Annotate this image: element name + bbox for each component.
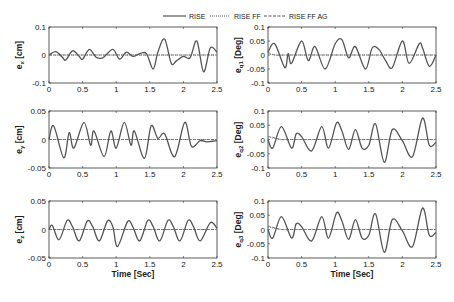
y-tick-label: -0.1 [32,79,46,88]
x-tick-label: 1.5 [144,260,156,269]
y-tick-label: 0.1 [254,197,266,206]
x-axis-label: Time [Sec] [331,269,374,279]
y-tick-label: 0 [261,136,266,145]
x-tick-label: 1 [333,85,338,94]
y-tick-label: 0 [42,51,47,60]
y-tick-label: -0.05 [28,164,47,173]
x-tick-label: 1 [114,170,119,179]
y-axis-label: ez [cm] [14,215,25,243]
y-tick-label: 0 [42,136,47,145]
x-tick-label: 2.5 [430,170,442,179]
x-tick-label: 1 [114,85,119,94]
panel-eq1: 00.511.522.50.10.050-0.05-0.1eq1 [Deg] [233,23,442,94]
y-tick-label: 0.05 [249,121,265,130]
x-tick-label: 2.5 [211,260,223,269]
x-tick-label: 0.5 [296,170,308,179]
x-tick-label: 2.5 [211,85,223,94]
x-tick-label: 2 [400,170,405,179]
x-tick-label: 0 [266,260,271,269]
y-axis-label: ex [cm] [14,41,25,70]
y-tick-label: -0.05 [28,254,47,263]
legend-rise-label: RISE [189,13,206,20]
x-tick-label: 1.5 [363,170,375,179]
y-tick-label: 0 [42,226,47,235]
y-tick-label: -0.1 [251,79,265,88]
panel-eq3: 00.511.522.50.10.050-0.05-0.1eq3 [Deg]Ti… [233,197,442,279]
x-tick-label: 2 [400,85,405,94]
x-tick-label: 2.5 [430,260,442,269]
figure: RISE RISE FF RISE FF AG 00.511.522.50.10… [0,0,454,302]
x-tick-label: 0.5 [296,85,308,94]
panel-ex: 00.511.522.50.10-0.1ex [cm] [14,23,223,94]
y-tick-label: 0.05 [30,197,46,206]
x-tick-label: 1.5 [144,85,156,94]
x-tick-label: 2 [181,85,186,94]
x-tick-label: 1.5 [363,260,375,269]
y-axis-label: eq1 [Deg] [233,37,244,73]
x-tick-label: 1.5 [363,85,375,94]
y-tick-label: 0.05 [249,37,265,46]
x-tick-label: 0.5 [296,260,308,269]
y-tick-label: 0.1 [254,107,266,116]
x-tick-label: 0.5 [77,170,89,179]
y-tick-label: 0.05 [249,211,265,220]
y-axis-label: eq3 [Deg] [233,211,244,247]
y-tick-label: -0.1 [251,254,265,263]
x-tick-label: 0 [47,170,52,179]
panel-eq2: 00.511.522.50.10.050-0.05-0.1eq2 [Deg] [233,107,442,179]
legend-rise-ff-ag-label: RISE FF AG [289,13,328,20]
x-tick-label: 2 [181,260,186,269]
y-tick-label: -0.05 [247,240,266,249]
x-tick-label: 0 [266,170,271,179]
x-tick-label: 0.5 [77,85,89,94]
x-tick-label: 0 [47,85,52,94]
y-tick-label: 0 [261,51,266,60]
y-axis-label: ey [cm] [14,125,25,154]
legend-rise-ff-label: RISE FF [234,13,261,20]
x-tick-label: 1 [333,260,338,269]
y-tick-label: 0 [261,226,266,235]
y-tick-label: 0.05 [30,107,46,116]
x-tick-label: 0 [266,85,271,94]
y-axis-label: eq2 [Deg] [233,121,244,157]
x-tick-label: 2.5 [430,85,442,94]
panel-ez: 00.511.522.50.050-0.05ez [cm]Time [Sec] [14,197,223,279]
panel-ey: 00.511.522.50.050-0.05ey [cm] [14,107,223,179]
x-tick-label: 1 [333,170,338,179]
x-tick-label: 1 [114,260,119,269]
y-tick-label: -0.05 [247,150,266,159]
x-tick-label: 2 [181,170,186,179]
legend: RISE RISE FF RISE FF AG [163,13,328,20]
y-tick-label: -0.05 [247,65,266,74]
x-tick-label: 2.5 [211,170,223,179]
y-tick-label: 0.1 [254,23,266,32]
x-axis-label: Time [Sec] [112,269,155,279]
x-tick-label: 0 [47,260,52,269]
y-tick-label: -0.1 [251,164,265,173]
x-tick-label: 0.5 [77,260,89,269]
y-tick-label: 0.1 [35,23,47,32]
x-tick-label: 2 [400,260,405,269]
x-tick-label: 1.5 [144,170,156,179]
